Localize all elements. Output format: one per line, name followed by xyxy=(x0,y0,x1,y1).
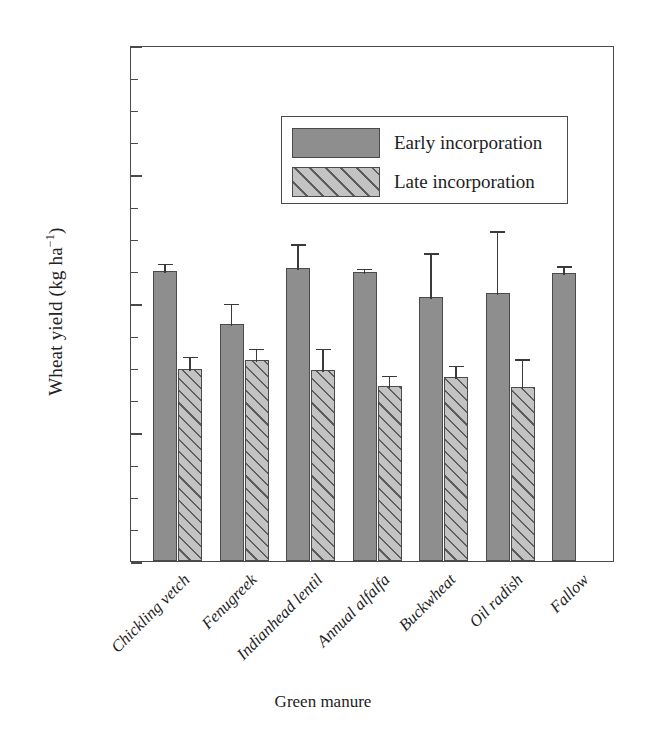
y-tick-minor xyxy=(131,240,138,241)
x-tick-label: Fallow xyxy=(546,570,593,617)
error-bar-stem xyxy=(497,231,498,294)
error-bar-cap xyxy=(158,264,173,266)
error-bar-cap xyxy=(515,359,530,361)
error-bar-stem xyxy=(322,349,323,372)
bar-late xyxy=(511,387,535,561)
x-tick-label: Buckwheat xyxy=(395,570,460,635)
x-tick-label: Chickling vetch xyxy=(107,570,194,657)
y-tick-minor xyxy=(131,208,138,209)
chart-legend: Early incorporation Late incorporation xyxy=(281,116,568,204)
error-bar-cap xyxy=(557,266,572,268)
error-bar-cap xyxy=(183,357,198,359)
bar-early xyxy=(220,324,244,561)
y-axis-title-tail: ) xyxy=(45,227,66,234)
legend-label-early: Early incorporation xyxy=(394,132,542,154)
y-tick-minor xyxy=(131,79,138,80)
error-bar-cap xyxy=(224,304,239,306)
y-axis-title-main: Wheat yield (kg ha xyxy=(45,247,66,396)
error-bar-stem xyxy=(256,349,257,362)
y-tick-minor xyxy=(131,401,138,402)
y-tick-minor xyxy=(131,337,138,338)
y-tick-major xyxy=(131,46,142,47)
y-tick-minor xyxy=(131,466,138,467)
y-tick-minor xyxy=(131,143,138,144)
bar-early xyxy=(353,272,377,561)
legend-item-early: Early incorporation xyxy=(292,126,557,159)
bar-early xyxy=(153,271,177,561)
bar-late xyxy=(178,369,202,561)
figure-bar-chart-wheat-yield: Wheat yield (kg ha−1) 01000200030004000 … xyxy=(0,0,646,745)
legend-swatch-late-icon xyxy=(292,167,380,197)
y-tick-major xyxy=(131,175,142,176)
bar-early xyxy=(552,273,576,561)
bar-early xyxy=(419,297,443,561)
error-bar-stem xyxy=(189,357,190,371)
x-tick-label: Oil radish xyxy=(465,570,527,632)
error-bar-cap xyxy=(249,349,264,351)
error-bar-cap xyxy=(382,376,397,378)
y-tick-minor xyxy=(131,272,138,273)
y-tick-major xyxy=(131,562,142,563)
bar-early xyxy=(486,293,510,561)
error-bar-cap xyxy=(316,349,331,351)
bar-early xyxy=(286,268,310,561)
y-axis-title-exponent: −1 xyxy=(43,234,57,247)
error-bar-stem xyxy=(231,304,232,326)
y-tick-major xyxy=(131,304,142,305)
error-bar-stem xyxy=(297,244,298,270)
bar-late xyxy=(444,377,468,561)
plot-area: 01000200030004000 Early incorporation La… xyxy=(130,46,614,562)
legend-swatch-early-icon xyxy=(292,128,380,158)
bar-late xyxy=(245,360,269,561)
error-bar-stem xyxy=(389,376,390,388)
error-bar-cap xyxy=(449,366,464,368)
bar-late xyxy=(378,386,402,561)
error-bar-stem xyxy=(455,366,456,379)
error-bar-cap xyxy=(357,269,372,271)
y-tick-minor xyxy=(131,111,138,112)
error-bar-cap xyxy=(291,244,306,246)
y-tick-minor xyxy=(131,369,138,370)
y-tick-major xyxy=(131,433,142,434)
y-tick-minor xyxy=(131,498,138,499)
bar-late xyxy=(311,370,335,561)
legend-item-late: Late incorporation xyxy=(292,165,557,198)
error-bar-cap xyxy=(424,253,439,255)
error-bar-stem xyxy=(522,359,523,389)
x-axis-title: Green manure xyxy=(0,692,646,712)
x-tick-label: Fenugreek xyxy=(197,570,261,634)
y-axis-title: Wheat yield (kg ha−1) xyxy=(43,182,66,442)
error-bar-cap xyxy=(490,231,505,233)
error-bar-stem xyxy=(430,253,431,298)
y-tick-minor xyxy=(131,530,138,531)
legend-label-late: Late incorporation xyxy=(394,171,535,193)
